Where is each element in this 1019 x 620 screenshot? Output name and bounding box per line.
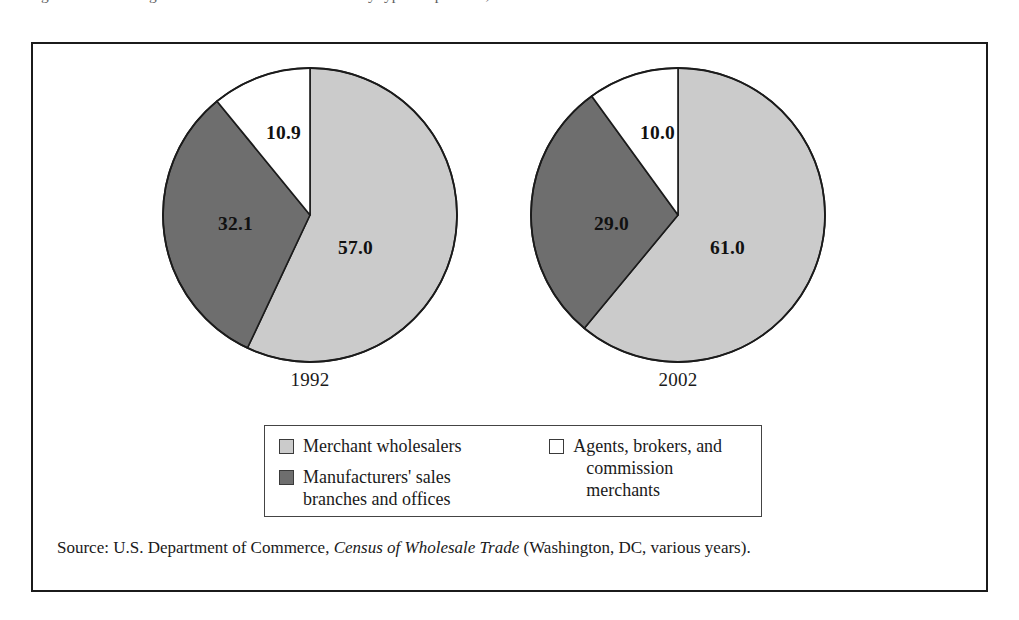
slice-value-2002-agents: 10.0 <box>640 122 675 144</box>
legend-label-line2: branches and offices <box>303 488 451 510</box>
slice-value-2002-branches: 29.0 <box>594 213 629 235</box>
legend-column-left: Merchant wholesalers Manufacturers' sale… <box>279 435 533 519</box>
slice-value-1992-branches: 32.1 <box>218 213 253 235</box>
pie-chart-2002: 61.0 29.0 10.0 2002 <box>528 65 828 405</box>
legend-label-line1: Manufacturers' sales <box>303 467 451 487</box>
figure-caption-text: Figure 1.1 Percentage distribution of wh… <box>28 0 988 3</box>
legend-swatch-light-gray-icon <box>279 439 294 454</box>
legend-item-manufacturers-sales-branches: Manufacturers' sales branches and office… <box>279 466 533 510</box>
legend-item-agents-brokers: Agents, brokers, and commission merchant… <box>549 435 749 501</box>
legend-item-merchant-wholesalers: Merchant wholesalers <box>279 435 533 457</box>
legend-swatch-white-icon <box>549 439 564 454</box>
figure-caption-strip: Figure 1.1 Percentage distribution of wh… <box>0 0 1019 13</box>
source-suffix: (Washington, DC, various years). <box>519 538 750 557</box>
legend-label-line1: Merchant wholesalers <box>303 436 461 456</box>
legend-label-agents-brokers: Agents, brokers, and commission merchant… <box>573 435 749 501</box>
pie-year-label-1992: 1992 <box>160 369 460 391</box>
legend-label-line2: commission merchants <box>573 457 749 501</box>
legend-column-right: Agents, brokers, and commission merchant… <box>549 435 749 519</box>
pie-year-label-2002: 2002 <box>528 369 828 391</box>
slice-value-1992-merchant: 57.0 <box>338 237 373 259</box>
chart-legend: Merchant wholesalers Manufacturers' sale… <box>264 425 762 517</box>
figure-frame: 57.0 32.1 10.9 1992 61.0 29.0 10.0 2002 … <box>31 42 988 592</box>
source-prefix: Source: U.S. Department of Commerce, <box>57 538 334 557</box>
legend-label-merchant-wholesalers: Merchant wholesalers <box>303 435 461 457</box>
legend-columns: Merchant wholesalers Manufacturers' sale… <box>279 435 749 519</box>
pie-svg-1992 <box>160 65 460 365</box>
slice-value-2002-merchant: 61.0 <box>710 237 745 259</box>
source-publication-title: Census of Wholesale Trade <box>334 538 520 557</box>
pie-svg-2002 <box>528 65 828 365</box>
source-note: Source: U.S. Department of Commerce, Cen… <box>57 537 967 559</box>
legend-swatch-dark-gray-icon <box>279 470 294 485</box>
slice-value-1992-agents: 10.9 <box>266 122 301 144</box>
pie-chart-1992: 57.0 32.1 10.9 1992 <box>160 65 460 405</box>
pie-charts-area: 57.0 32.1 10.9 1992 61.0 29.0 10.0 2002 <box>33 44 986 384</box>
legend-label-manufacturers-sales-branches: Manufacturers' sales branches and office… <box>303 466 451 510</box>
legend-label-line1: Agents, brokers, and <box>573 436 722 456</box>
